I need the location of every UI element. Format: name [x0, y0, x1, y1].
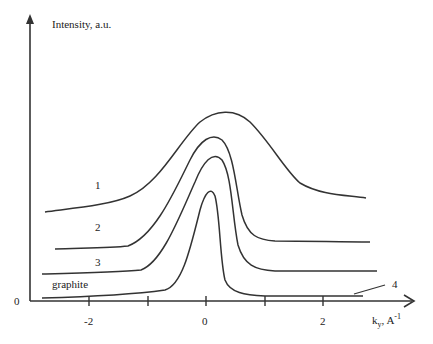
curve-label-1: 1 — [95, 179, 101, 191]
y-axis-arrow-icon — [26, 14, 34, 24]
x-tick-label-0: 0 — [202, 315, 208, 327]
curve-label-2: 2 — [95, 221, 101, 233]
origin-label: 0 — [14, 295, 20, 307]
curve-label-3: 3 — [95, 256, 101, 268]
intensity-chart: -2 0 2 0 Intensity, a.u. ky, A-1 1 2 3 g… — [0, 0, 433, 344]
annotation-4-pointer — [354, 285, 385, 294]
x-tick-label-neg2: -2 — [84, 315, 93, 327]
annotation-4-label: 4 — [392, 278, 398, 290]
curve-3 — [42, 156, 377, 274]
x-tick-label-2: 2 — [320, 315, 326, 327]
curve-label-graphite: graphite — [52, 278, 88, 290]
y-axis-label: Intensity, a.u. — [52, 18, 111, 30]
x-axis-label: ky, A-1 — [372, 312, 401, 329]
curve-graphite — [42, 191, 363, 298]
